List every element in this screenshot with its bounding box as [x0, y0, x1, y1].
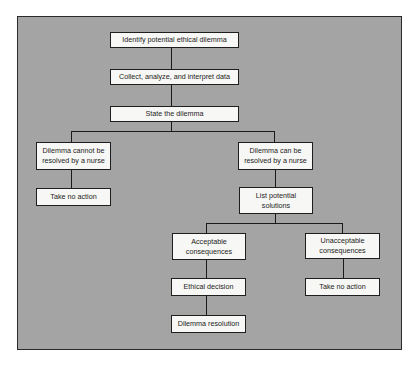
node-take-no-action-left: Take no action [36, 188, 111, 206]
connector-can-list [275, 170, 276, 187]
connector-branch-can [274, 131, 275, 142]
node-acceptable-consequences: Acceptable consequences [172, 233, 246, 260]
connector-cannot-noaction [71, 170, 72, 188]
node-unacceptable-consequences: Unacceptable consequences [305, 233, 380, 259]
connector-branch-horizontal [71, 131, 275, 132]
connector-consequence-horizontal [206, 223, 343, 224]
connector-branch-unacceptable [342, 223, 343, 233]
node-can-resolve: Dilemma can be resolved by a nurse [238, 142, 313, 170]
connector-ethical-resolution [206, 296, 207, 315]
node-ethical-decision: Ethical decision [171, 278, 246, 296]
connector-acceptable-ethical [206, 260, 207, 278]
node-identify-dilemma: Identify potential ethical dilemma [110, 32, 239, 48]
node-dilemma-resolution: Dilemma resolution [171, 315, 246, 333]
connector-branch-acceptable [206, 223, 207, 233]
diagram-frame [17, 16, 402, 350]
node-cannot-resolve: Dilemma cannot be resolved by a nurse [36, 142, 111, 170]
connector-unacceptable-noaction [343, 259, 344, 278]
node-take-no-action-right: Take no action [305, 278, 380, 296]
node-list-solutions: List potential solutions [239, 187, 313, 214]
node-collect-data: Collect, analyze, and interpret data [110, 69, 239, 85]
connector-branch-cannot [71, 131, 72, 142]
node-state-dilemma: State the dilemma [110, 106, 239, 122]
connector-collect-state [171, 84, 172, 106]
connector-identify-collect [171, 47, 172, 69]
